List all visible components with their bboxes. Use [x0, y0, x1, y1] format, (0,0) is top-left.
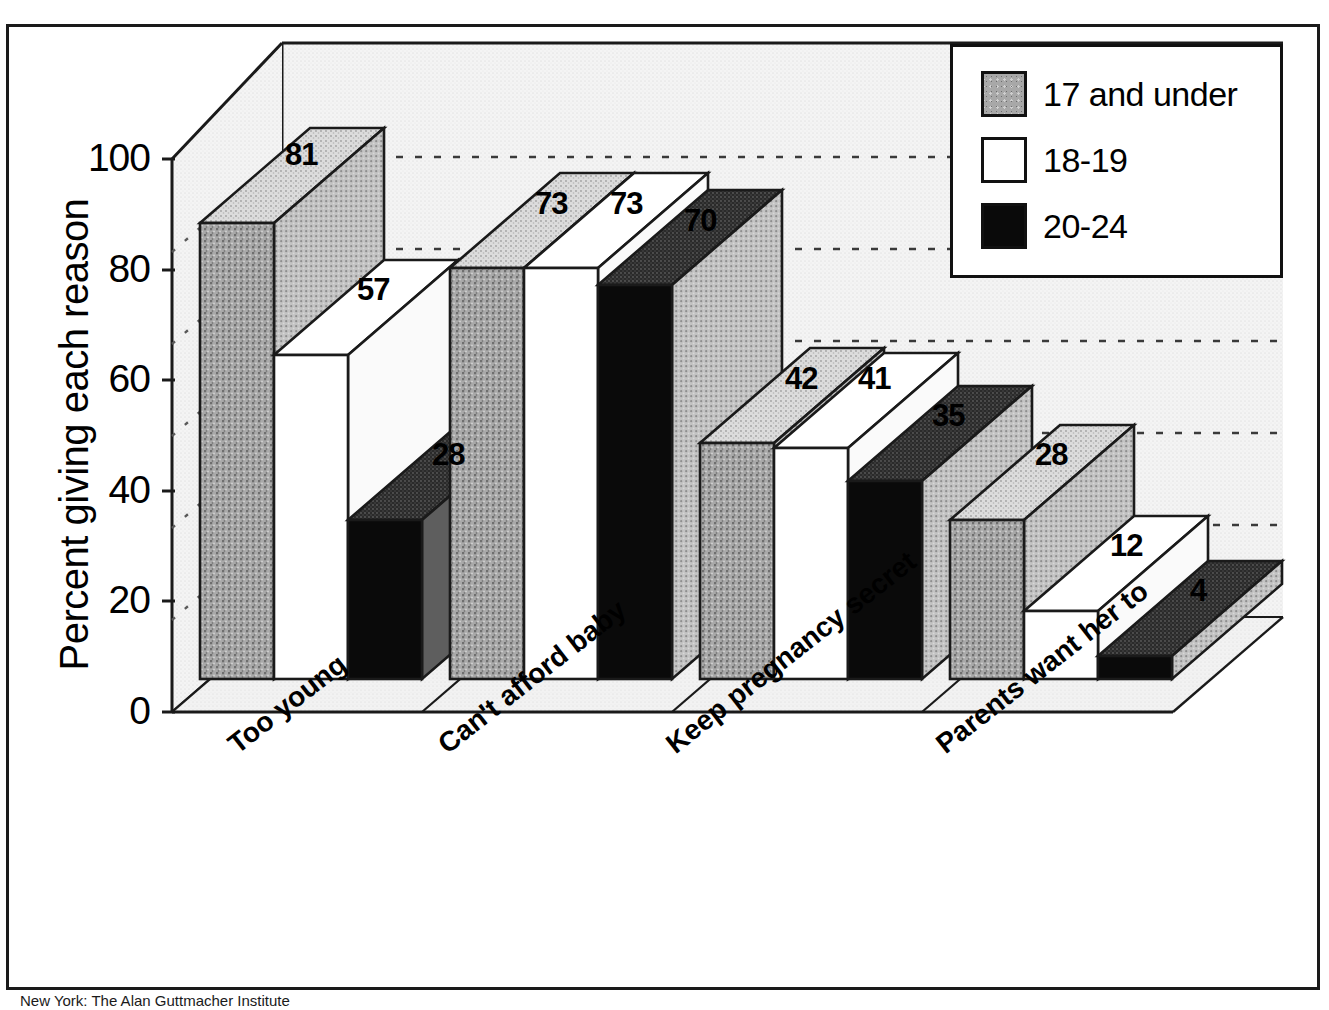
value-label-parents-want-18-19: 12: [1110, 528, 1142, 564]
legend-swatch-17-and-under: [981, 71, 1027, 117]
value-label-keep-secret-17-and-under: 42: [785, 361, 817, 397]
value-label-parents-want-20-24: 4: [1190, 573, 1206, 609]
value-label-keep-secret-20-24: 35: [932, 398, 964, 434]
value-label-parents-want-17-and-under: 28: [1035, 437, 1067, 473]
legend-swatch-20-24: [981, 203, 1027, 249]
value-label-keep-secret-18-19: 41: [858, 361, 890, 397]
legend-label-20-24: 20-24: [1043, 207, 1127, 246]
value-label-cant-afford-20-24: 70: [684, 203, 716, 239]
value-label-too-young-20-24: 28: [432, 437, 464, 473]
legend-item-17-and-under[interactable]: 17 and under: [981, 69, 1280, 119]
value-label-cant-afford-18-19: 73: [610, 186, 642, 222]
source-caption: New York: The Alan Guttmacher Institute: [20, 992, 1329, 1009]
y-axis-label: Percent giving each reason: [52, 165, 97, 705]
value-label-too-young-17-and-under: 81: [285, 137, 317, 173]
value-label-too-young-18-19: 57: [357, 272, 389, 308]
value-label-cant-afford-17-and-under: 73: [535, 186, 567, 222]
legend-label-17-and-under: 17 and under: [1043, 75, 1237, 114]
legend-item-20-24[interactable]: 20-24: [981, 201, 1280, 251]
legend-item-18-19[interactable]: 18-19: [981, 135, 1280, 185]
legend-label-18-19: 18-19: [1043, 141, 1127, 180]
chart-legend: 17 and under 18-19 20-24: [950, 44, 1283, 278]
legend-swatch-18-19: [981, 137, 1027, 183]
